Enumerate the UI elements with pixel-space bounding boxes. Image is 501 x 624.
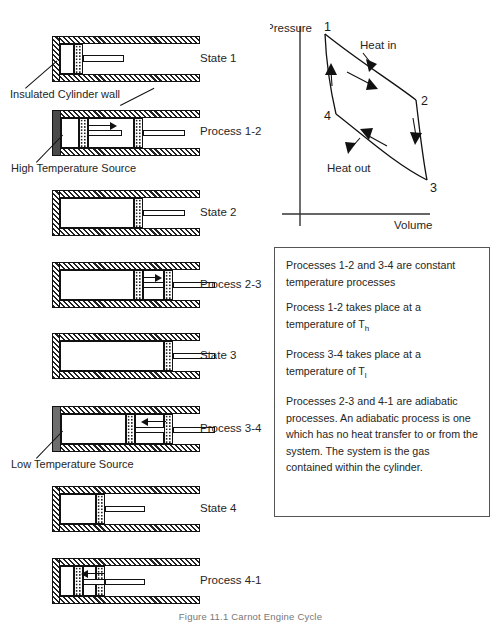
gas-chamber [61,414,126,444]
gas-chamber [60,341,164,371]
insulated-wall-leader-2 [120,88,154,106]
cylinder-bottom-wall [52,300,200,308]
cylinder-process-1-2 [52,110,200,156]
cylinder-label-state-2: State 2 [200,206,236,218]
piston [134,198,143,228]
piston-rod-end [135,427,165,433]
piston-rod [143,210,185,216]
piston-rod-start [88,130,122,136]
low-temperature-source-label: Low Temperature Source [11,458,134,470]
infobox-paragraph-3: Process 3-4 takes place at a temperature… [286,346,478,384]
infobox-p2-subscript: h [365,324,369,333]
cylinder-top-wall [52,190,200,198]
cylinder-label-process-1-2: Process 1-2 [200,125,261,137]
cylinder-left-wall [52,36,60,82]
pressure-axis-label: Pressure [270,22,312,34]
piston-end [134,118,143,148]
piston-rod-end [143,130,185,136]
cylinder-left-wall [52,333,60,379]
cylinder-state-1 [52,36,200,82]
cylinder-label-process-4-1: Process 4-1 [200,574,261,586]
gas-chamber [60,270,134,300]
cylinder-top-wall [52,558,200,566]
cylinder-left-wall [52,486,60,532]
infobox-p2-line2: temperature of T [286,318,365,330]
high-temperature-source-label: High Temperature Source [11,162,136,174]
cylinder-left-wall [52,190,60,236]
cylinder-process-3-4 [52,406,200,452]
heat-in-arrow-head-icon [366,59,377,72]
piston-start [134,270,143,300]
motion-arrow-head-left-icon [81,570,88,578]
infobox-p1-line1: Processes 1-2 and 3-4 are [286,259,412,271]
cylinder-label-state-3: State 3 [200,349,236,361]
infobox-p3-subscript: l [365,371,367,380]
cylinder-label-state-4: State 4 [200,502,236,514]
cylinder-top-wall [52,110,200,118]
motion-arrow-head-left-icon [141,418,148,426]
cylinder-bottom-wall [52,596,200,604]
explanatory-text-box: Processes 1-2 and 3-4 are constant tempe… [274,247,490,517]
motion-arrow-line [88,573,105,574]
cylinder-state-4 [52,486,200,532]
piston [164,341,173,371]
cylinder-bottom-wall [52,524,200,532]
pv-point-label-1: 1 [324,20,331,34]
cylinder-bottom-wall [52,444,200,452]
gas-chamber [60,566,74,596]
cylinder-process-4-1 [52,558,200,604]
gas-chamber [60,198,134,228]
motion-arrow-line [88,125,111,126]
gas-chamber [61,118,79,148]
piston-start [79,118,88,148]
piston-end [126,414,135,444]
high-temperature-source-block [52,110,61,156]
cylinder-left-wall [52,558,60,604]
cylinder-label-process-2-3: Process 2-3 [200,278,261,290]
cylinder-bottom-wall [52,371,200,379]
pressure-volume-diagram: Heat in Heat out 1 2 3 4 Pressure Volume [270,14,501,246]
cylinder-state-2 [52,190,200,236]
piston-rod [105,506,145,512]
low-temperature-source-block [52,406,61,452]
figure-caption: Figure 11.1 Carnot Engine Cycle [0,611,501,624]
volume-axis-label: Volume [394,219,432,231]
heat-out-arrow-head-icon [345,142,356,154]
piston-end [164,270,173,300]
cylinder-top-wall [52,406,200,414]
cylinder-top-wall [52,333,200,341]
cylinder-top-wall [52,262,200,270]
cylinder-bottom-wall [52,74,200,82]
piston-rod-start [105,579,145,585]
infobox-p3-line2: temperature of T [286,365,365,377]
infobox-paragraph-1: Processes 1-2 and 3-4 are constant tempe… [286,257,478,290]
gas-chamber [60,494,96,524]
motion-arrow-line [148,421,166,422]
piston [74,44,83,74]
pv-point-label-4: 4 [324,109,331,123]
direction-arrow-12-line [347,72,370,84]
cylinder-bottom-wall [52,148,200,156]
cylinder-label-state-1: State 1 [200,52,236,64]
direction-arrow-12-head-icon [366,78,378,90]
cylinder-label-process-3-4: Process 3-4 [200,422,261,434]
cylinder-top-wall [52,36,200,44]
motion-arrow-head-right-icon [110,122,117,130]
cylinder-process-2-3 [52,262,200,308]
heat-out-label: Heat out [327,162,371,174]
cylinder-top-wall [52,486,200,494]
cylinder-state-3 [52,333,200,379]
piston-rod-end [83,579,105,585]
infobox-paragraph-4: Processes 2-3 and 4-1 are adiabatic proc… [286,393,478,476]
infobox-p3-line1: Process 3-4 takes place at a [286,348,421,360]
pv-point-label-3: 3 [430,181,437,195]
infobox-p2-line1: Process 1-2 takes place at a [286,301,421,313]
cylinder-bottom-wall [52,228,200,236]
infobox-paragraph-2: Process 1-2 takes place at a temperature… [286,299,478,337]
motion-arrow-head-right-icon [155,274,162,282]
cylinder-left-wall [52,262,60,308]
heat-in-label: Heat in [360,39,396,51]
piston-rod-start [143,282,164,288]
pv-point-label-2: 2 [421,94,428,108]
piston-start [164,414,173,444]
